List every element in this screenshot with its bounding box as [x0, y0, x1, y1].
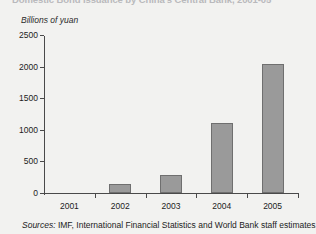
y-tick-label: 500: [24, 156, 38, 166]
y-axis-unit-label: Billions of yuan: [21, 15, 78, 25]
x-tick-mark: [196, 193, 197, 198]
chart-title: Domestic Bond Issuance by China's Centra…: [12, 0, 312, 5]
x-axis-labels: 20012002200320042005: [44, 201, 298, 213]
source-note-text: IMF, International Financial Statistics …: [56, 220, 316, 230]
x-tick-mark: [95, 193, 96, 198]
bar-2004: [211, 123, 233, 193]
x-tick-mark: [298, 193, 299, 198]
y-tick-label: 0: [33, 188, 38, 198]
source-note: Sources: IMF, International Financial St…: [22, 220, 316, 230]
y-axis-line: [44, 36, 45, 195]
source-note-label: Sources:: [22, 220, 56, 230]
x-tick-label-2004: 2004: [212, 201, 231, 211]
x-tick-label-2001: 2001: [60, 201, 79, 211]
x-tick-label-2002: 2002: [111, 201, 130, 211]
y-tick-label: 1000: [19, 125, 38, 135]
x-tick-mark: [146, 193, 147, 198]
bar-2003: [160, 175, 182, 193]
x-tick-mark: [247, 193, 248, 198]
y-tick-label: 2500: [19, 30, 38, 40]
y-tick-label: 2000: [19, 62, 38, 72]
y-tick-mark: [40, 98, 44, 99]
y-tick-mark: [40, 161, 44, 162]
x-tick-label-2005: 2005: [263, 201, 282, 211]
bar-2002: [109, 184, 131, 193]
plot-area: 05001000150020002500: [44, 36, 298, 194]
chart-figure: Domestic Bond Issuance by China's Centra…: [0, 0, 316, 234]
y-tick-mark: [40, 67, 44, 68]
y-tick-label: 1500: [19, 93, 38, 103]
y-tick-mark: [40, 130, 44, 131]
x-axis-line: [44, 193, 298, 194]
bar-2005: [262, 64, 284, 193]
y-tick-mark: [40, 35, 44, 36]
x-tick-label-2003: 2003: [162, 201, 181, 211]
y-tick-mark: [40, 193, 44, 194]
